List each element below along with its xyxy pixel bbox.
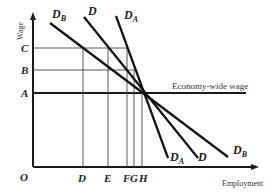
y-axis-label: Wage	[16, 22, 25, 40]
curve-label-d-top: D	[87, 4, 97, 18]
labor-demand-diagram: Wage Employment Economy-wide wage O C B …	[0, 0, 271, 194]
wage-label-b: B	[20, 64, 28, 76]
curve-label-da-bottom: DA	[169, 150, 185, 166]
employment-label-e: E	[103, 172, 111, 184]
wage-label-c: C	[21, 42, 29, 54]
employment-label-d: D	[77, 172, 86, 184]
x-axis-label: Employment	[222, 179, 264, 188]
origin-label: O	[20, 171, 28, 183]
employment-label-g: G	[130, 172, 138, 184]
y-axis-arrow-icon	[30, 12, 36, 20]
wage-label-a: A	[20, 87, 28, 99]
curve-label-d-bottom: D	[197, 150, 207, 164]
curve-label-db-top: DB	[51, 7, 67, 23]
employment-label-h: H	[138, 172, 148, 184]
x-axis-arrow-icon	[251, 164, 259, 170]
curve-label-db-bottom: DB	[232, 143, 248, 159]
economy-wide-wage-label: Economy-wide wage	[172, 81, 248, 91]
curve-label-da-top: DA	[123, 8, 139, 24]
